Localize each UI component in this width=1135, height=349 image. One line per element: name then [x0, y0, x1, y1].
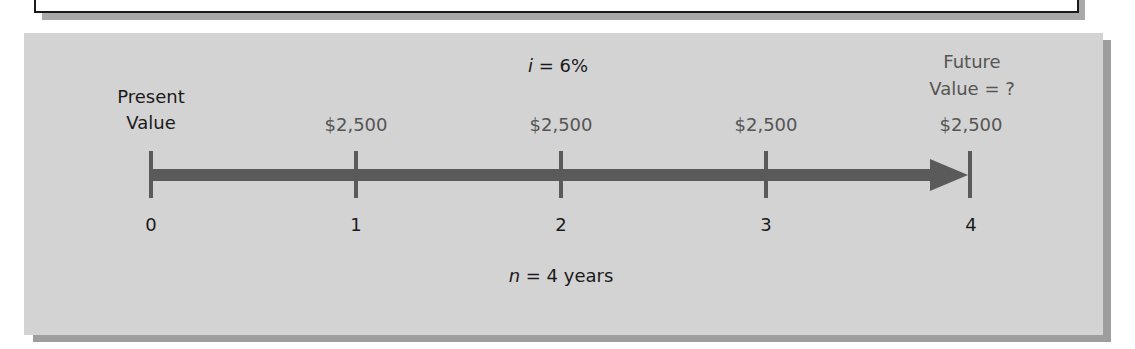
period-label-0: 0: [145, 214, 156, 236]
present-value-line2: Value: [117, 112, 185, 134]
cash-flow-amount-3: $2,500: [735, 114, 798, 136]
present-value-label: Present Value: [117, 86, 185, 134]
period-label-1: 1: [350, 214, 361, 236]
period-label-4: 4: [965, 214, 976, 236]
period-count-label: n = 4 years: [509, 265, 614, 287]
future-value-line1: Future: [929, 51, 1015, 73]
future-value-label: Future Value = ?: [929, 51, 1015, 100]
top-box: [34, 0, 1079, 13]
cash-flow-amount-4: $2,500: [940, 114, 1003, 136]
arrow-right-icon: [930, 159, 968, 191]
tick-2: [559, 151, 563, 198]
period-label-3: 3: [760, 214, 771, 236]
timeline-bar: [151, 169, 937, 181]
period-variable: n: [509, 265, 520, 286]
period-value: = 4 years: [526, 265, 614, 286]
tick-0: [149, 151, 153, 198]
future-value-line2: Value = ?: [929, 78, 1015, 100]
tick-1: [354, 151, 358, 198]
period-label-2: 2: [555, 214, 566, 236]
cash-flow-amount-2: $2,500: [530, 114, 593, 136]
cash-flow-amount-1: $2,500: [325, 114, 388, 136]
rate-value: = 6%: [539, 55, 588, 76]
tick-3: [764, 151, 768, 198]
interest-rate-label: i = 6%: [528, 55, 588, 77]
tick-4: [968, 151, 972, 198]
present-value-line1: Present: [117, 86, 185, 108]
rate-variable: i: [528, 55, 533, 76]
